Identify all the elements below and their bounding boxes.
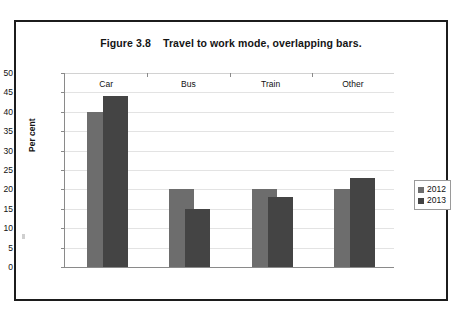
y-axis-tick [61,131,65,132]
y-axis-tick-label: 10 [0,224,13,233]
y-axis-tick-label: 5 [0,244,13,253]
y-axis-tick [61,267,65,268]
legend-item-2012[interactable]: 2012 [418,184,446,195]
legend: 2012 2013 [414,180,451,210]
bar-2013-train[interactable] [268,197,293,267]
y-axis-tick [61,248,65,249]
y-axis-title: Per cent [27,118,37,152]
bar-2013-other[interactable] [350,178,375,267]
x-axis-tick [230,73,231,77]
y-axis-tick [61,189,65,190]
chart-figure-frame: Figure 3.8 Travel to work mode, overlapp… [14,20,448,301]
gridline [65,92,394,93]
y-axis-tick-label: 45 [0,88,13,97]
legend-swatch-icon-2012 [418,187,424,193]
page-title: Figure 3.8 Travel to work mode, overlapp… [16,37,446,49]
y-axis-tick [61,92,65,93]
y-axis-tick [61,170,65,171]
legend-label-2012: 2012 [427,185,446,194]
y-axis-tick [61,112,65,113]
y-axis-tick-label: 15 [0,205,13,214]
y-axis-tick-label: 30 [0,147,13,156]
y-axis-tick-label: 20 [0,185,13,194]
y-axis-tick-label: 25 [0,166,13,175]
x-axis-tick [312,73,313,77]
y-axis-tick-label: 40 [0,108,13,117]
y-axis-tick [61,151,65,152]
legend-swatch-icon-2013 [418,198,424,204]
y-axis-tick [61,73,65,74]
legend-label-2013: 2013 [427,196,446,205]
x-axis-label-train: Train [261,79,280,89]
scan-artifact [22,234,25,239]
legend-item-2013[interactable]: 2013 [418,195,446,206]
y-axis-tick-label: 35 [0,127,13,136]
y-axis-tick [61,209,65,210]
x-axis-label-car: Car [99,79,113,89]
y-axis-tick-label: 50 [0,69,13,78]
x-axis-label-other: Other [342,79,363,89]
x-axis-label-bus: Bus [181,79,196,89]
bar-2013-car[interactable] [103,96,128,267]
x-axis-tick [147,73,148,77]
bar-2013-bus[interactable] [185,209,210,267]
plot-area: 50454035302520151050CarBusTrainOther [64,73,394,268]
y-axis-tick-label: 0 [0,263,13,272]
y-axis-tick [61,228,65,229]
